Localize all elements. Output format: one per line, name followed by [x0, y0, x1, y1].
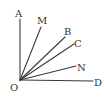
- label-o: O: [10, 82, 18, 93]
- label-n: N: [77, 62, 86, 73]
- geometry-diagram: A M B C N D O: [0, 0, 104, 99]
- label-b: B: [64, 26, 71, 37]
- ray-oc: [20, 44, 74, 80]
- ray-ob: [20, 37, 65, 80]
- ray-om: [20, 27, 41, 80]
- label-c: C: [74, 38, 82, 49]
- label-m: M: [37, 15, 47, 26]
- ray-on: [20, 66, 76, 80]
- label-a: A: [14, 8, 23, 19]
- ray-od: [20, 80, 93, 81]
- label-d: D: [94, 77, 102, 88]
